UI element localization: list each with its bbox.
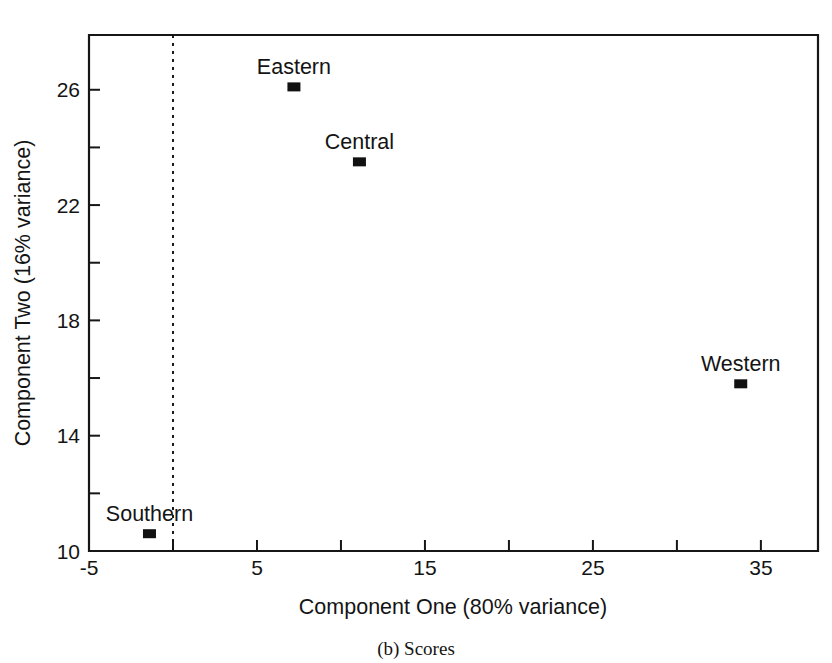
y-tick-label: 14 — [57, 424, 81, 447]
data-point-marker — [353, 157, 366, 166]
y-tick-label: 18 — [57, 309, 80, 332]
x-tick-label: 5 — [251, 556, 263, 579]
x-tick-label: 35 — [749, 556, 772, 579]
data-point-label: Western — [701, 352, 781, 376]
figure-caption: (b) Scores — [377, 638, 455, 660]
scores-scatter-figure: 1014182226 -55152535 EasternCentralWeste… — [0, 0, 832, 663]
data-point-label: Central — [325, 130, 394, 154]
data-point-marker — [734, 379, 747, 388]
data-point-marker — [287, 82, 300, 91]
x-axis-title: Component One (80% variance) — [299, 595, 607, 619]
y-tick-label: 22 — [57, 194, 80, 217]
y-tick-label: 10 — [57, 540, 80, 563]
x-tick-label: 15 — [413, 556, 436, 579]
y-tick-label: 26 — [57, 78, 80, 101]
data-point-label: Eastern — [257, 55, 331, 79]
y-axis-title: Component Two (16% variance) — [11, 140, 35, 447]
data-point-marker — [143, 529, 156, 538]
data-point-label: Southern — [106, 502, 193, 526]
x-tick-label: -5 — [80, 556, 99, 579]
x-tick-label: 25 — [581, 556, 604, 579]
scatter-plot-canvas: 1014182226 -55152535 EasternCentralWeste… — [0, 0, 832, 663]
